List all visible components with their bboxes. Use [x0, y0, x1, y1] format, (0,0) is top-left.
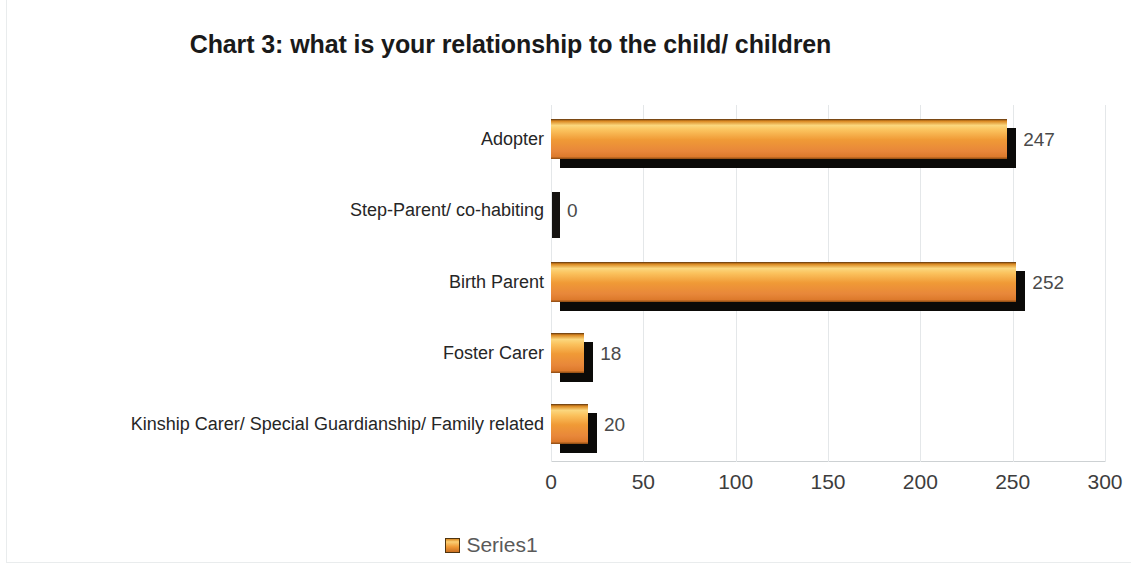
value-axis-tick-labels: 050100150200250300	[551, 470, 1105, 500]
page-border-left	[6, 0, 7, 563]
bar-fill	[551, 262, 1016, 302]
chart-title: Chart 3: what is your relationship to th…	[0, 30, 1131, 59]
value-tick-label: 300	[1087, 470, 1122, 494]
legend-entry[interactable]: Series1	[445, 533, 537, 557]
category-label: Foster Carer	[8, 343, 544, 364]
legend-label: Series1	[466, 533, 537, 557]
bar-value-label: 0	[567, 200, 578, 222]
bar-value-label: 247	[1023, 129, 1055, 151]
category-label: Kinship Carer/ Special Guardianship/ Fam…	[8, 414, 544, 435]
bar-fill	[551, 404, 588, 444]
bar-value-label: 18	[600, 343, 621, 365]
plot-area: 24702521820	[551, 105, 1105, 462]
chart-figure: Chart 3: what is your relationship to th…	[0, 0, 1131, 577]
value-tick-label: 250	[995, 470, 1030, 494]
value-tick-label: 100	[718, 470, 753, 494]
chart-legend: Series1	[0, 533, 1131, 557]
category-axis-labels: AdopterStep-Parent/ co-habitingBirth Par…	[8, 105, 544, 462]
bar-fill-zero	[552, 192, 560, 238]
value-tick-label: 50	[632, 470, 655, 494]
value-tick-label: 150	[810, 470, 845, 494]
bar-fill	[551, 119, 1007, 159]
gridline	[1105, 105, 1106, 462]
bar-value-label: 20	[604, 414, 625, 436]
value-tick-label: 0	[545, 470, 557, 494]
value-tick-label: 200	[903, 470, 938, 494]
category-label: Adopter	[8, 129, 544, 150]
page-border-bottom	[6, 562, 1131, 563]
category-label: Birth Parent	[8, 272, 544, 293]
legend-swatch-icon	[445, 538, 460, 553]
bar-fill	[551, 333, 584, 373]
bar-value-label: 252	[1032, 272, 1064, 294]
category-label: Step-Parent/ co-habiting	[8, 200, 544, 221]
